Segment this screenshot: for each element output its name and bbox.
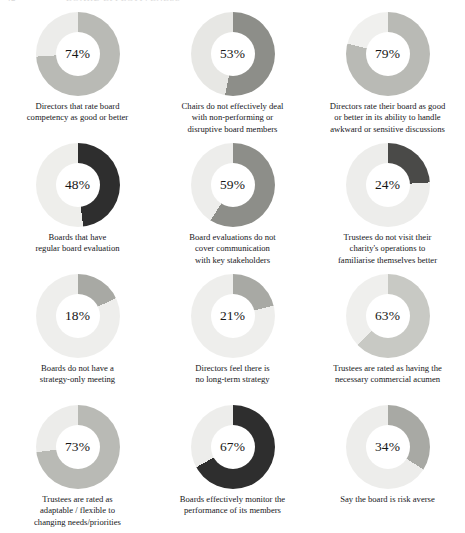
donut-graphic: 59% <box>191 143 275 227</box>
donut-chart-5: 59%Board evaluations do notcover communi… <box>155 140 310 271</box>
donut-graphic: 53% <box>191 12 275 96</box>
donut-chart-11: 67%Boards effectively monitor theperform… <box>155 402 310 533</box>
donut-caption: Trustees do not visit theircharity's ope… <box>313 232 463 266</box>
donut-caption: Say the board is risk averse <box>313 494 463 505</box>
donut-chart-8: 21%Directors feel there isno long-term s… <box>155 271 310 402</box>
donut-center-hole: 73% <box>56 425 100 469</box>
donut-center-hole: 59% <box>211 163 255 207</box>
donut-center-hole: 48% <box>56 163 100 207</box>
donut-value-label: 18% <box>65 309 90 323</box>
donut-graphic: 21% <box>191 274 275 358</box>
donut-center-hole: 18% <box>56 294 100 338</box>
donut-chart-1: 74%Directors that rate boardcompetency a… <box>0 9 155 140</box>
donut-center-hole: 34% <box>366 425 410 469</box>
donut-caption: Directors feel there isno long-term stra… <box>158 363 308 386</box>
donut-chart-4: 48%Boards that haveregular board evaluat… <box>0 140 155 271</box>
donut-graphic: 67% <box>191 405 275 489</box>
donut-center-hole: 24% <box>366 163 410 207</box>
donut-value-label: 79% <box>375 47 400 61</box>
donut-caption: Directors rate their board as goodor bet… <box>313 101 463 135</box>
page-folio-number: 42 <box>0 0 40 3</box>
donut-chart-2: 53%Chairs do not effectively dealwith no… <box>155 9 310 140</box>
donut-center-hole: 67% <box>211 425 255 469</box>
donut-caption: Boards do not have astrategy-only meetin… <box>3 363 153 386</box>
donut-center-hole: 74% <box>56 32 100 76</box>
donut-center-hole: 79% <box>366 32 410 76</box>
donut-value-label: 53% <box>220 47 245 61</box>
donut-center-hole: 21% <box>211 294 255 338</box>
donut-graphic: 74% <box>36 12 120 96</box>
donut-graphic: 18% <box>36 274 120 358</box>
donut-graphic: 63% <box>346 274 430 358</box>
donut-chart-9: 63%Trustees are rated as having theneces… <box>310 271 465 402</box>
donut-caption: Boards that haveregular board evaluation <box>3 232 153 255</box>
donut-caption: Chairs do not effectively dealwith non-p… <box>158 101 308 135</box>
donut-chart-7: 18%Boards do not have astrategy-only mee… <box>0 271 155 402</box>
donut-value-label: 67% <box>220 440 245 454</box>
donut-value-label: 21% <box>220 309 245 323</box>
donut-value-label: 73% <box>65 440 90 454</box>
donut-caption: Trustees are rated asadaptable / flexibl… <box>3 494 153 528</box>
donut-value-label: 48% <box>65 178 90 192</box>
donut-center-hole: 63% <box>366 294 410 338</box>
donut-caption: Boards effectively monitor theperformanc… <box>158 494 308 517</box>
donut-value-label: 74% <box>65 47 90 61</box>
donut-graphic: 79% <box>346 12 430 96</box>
donut-caption: Board evaluations do notcover communicat… <box>158 232 308 266</box>
donut-chart-grid: 74%Directors that rate boardcompetency a… <box>0 9 465 533</box>
donut-chart-3: 79%Directors rate their board as goodor … <box>310 9 465 140</box>
donut-graphic: 24% <box>346 143 430 227</box>
donut-value-label: 59% <box>220 178 245 192</box>
page-running-header: 42BOARD EFFECTIVENESS <box>0 0 465 9</box>
running-header-title: BOARD EFFECTIVENESS <box>40 0 181 3</box>
donut-center-hole: 53% <box>211 32 255 76</box>
donut-chart-10: 73%Trustees are rated asadaptable / flex… <box>0 402 155 533</box>
donut-caption: Directors that rate boardcompetency as g… <box>3 101 153 124</box>
donut-graphic: 48% <box>36 143 120 227</box>
donut-caption: Trustees are rated as having thenecessar… <box>313 363 463 386</box>
donut-graphic: 73% <box>36 405 120 489</box>
donut-value-label: 34% <box>375 440 400 454</box>
donut-chart-12: 34%Say the board is risk averse <box>310 402 465 533</box>
donut-value-label: 24% <box>375 178 400 192</box>
donut-value-label: 63% <box>375 309 400 323</box>
donut-chart-6: 24%Trustees do not visit theircharity's … <box>310 140 465 271</box>
donut-graphic: 34% <box>346 405 430 489</box>
